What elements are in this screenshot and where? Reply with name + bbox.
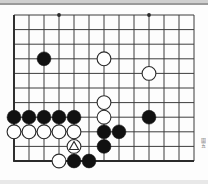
black-stone[interactable] bbox=[22, 110, 36, 124]
grid-lines bbox=[14, 15, 194, 161]
scan-artifact-top-line bbox=[0, 3, 208, 5]
go-board bbox=[0, 6, 208, 178]
black-stone[interactable] bbox=[82, 154, 96, 168]
white-stone[interactable] bbox=[37, 125, 51, 139]
white-stone[interactable] bbox=[22, 125, 36, 139]
white-stone[interactable] bbox=[67, 125, 81, 139]
diagram-root: 圖五 bbox=[0, 0, 208, 184]
star-point bbox=[57, 13, 61, 17]
black-stone[interactable] bbox=[37, 110, 51, 124]
black-stone[interactable] bbox=[112, 125, 126, 139]
black-stone[interactable] bbox=[67, 154, 81, 168]
white-stone[interactable] bbox=[142, 67, 156, 81]
white-stone[interactable] bbox=[7, 125, 21, 139]
black-stone[interactable] bbox=[7, 110, 21, 124]
scan-artifact-bottom bbox=[0, 180, 208, 184]
black-stone[interactable] bbox=[67, 110, 81, 124]
star-point bbox=[147, 13, 151, 17]
white-stone[interactable] bbox=[52, 154, 66, 168]
figure-caption: 圖五 bbox=[194, 138, 206, 148]
black-stone[interactable] bbox=[52, 110, 66, 124]
black-stone[interactable] bbox=[37, 52, 51, 66]
white-stone[interactable] bbox=[97, 96, 111, 110]
white-stone[interactable] bbox=[97, 52, 111, 66]
white-stone[interactable] bbox=[97, 110, 111, 124]
white-stone[interactable] bbox=[52, 125, 66, 139]
go-board-canvas bbox=[0, 6, 208, 178]
black-stone[interactable] bbox=[97, 140, 111, 154]
black-stone[interactable] bbox=[97, 125, 111, 139]
black-stone[interactable] bbox=[142, 110, 156, 124]
